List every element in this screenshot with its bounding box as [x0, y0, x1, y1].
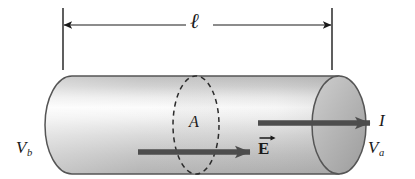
potential-a-label: Va	[368, 139, 384, 158]
potential-b-symbol: V	[16, 138, 26, 157]
conductor-diagram	[0, 0, 415, 179]
potential-a-subscript: a	[379, 147, 384, 158]
potential-a-symbol: V	[368, 138, 378, 157]
efield-label-text: E	[258, 139, 269, 158]
area-label: A	[189, 114, 199, 130]
potential-b-label: Vb	[16, 139, 32, 158]
length-label: ℓ	[190, 11, 199, 32]
potential-b-subscript: b	[27, 147, 32, 158]
current-label: I	[379, 112, 385, 129]
vector-arrow-icon	[259, 134, 276, 141]
efield-label: E	[258, 140, 269, 157]
